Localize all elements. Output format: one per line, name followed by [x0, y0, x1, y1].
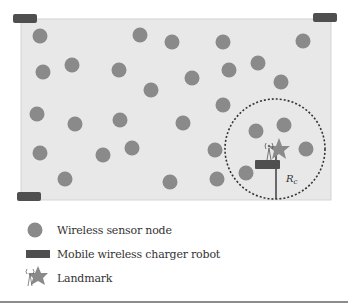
sensor-node [33, 29, 48, 44]
sensor-node [222, 63, 237, 78]
sensor-node [133, 28, 148, 43]
charger-robot-center [255, 160, 280, 169]
sensor-node [216, 98, 231, 113]
sensor-node [274, 75, 289, 90]
sensor-node [96, 148, 111, 163]
charger-robot-bottom-left [17, 192, 41, 201]
legend-charger-robot-icon [26, 250, 50, 258]
sensor-node [216, 35, 231, 50]
sensor-node [251, 56, 266, 71]
sensor-node [144, 83, 159, 98]
charger-robot-top-left [13, 14, 37, 23]
bottom-divider [0, 301, 348, 303]
sensor-node [125, 141, 140, 156]
legend-item-landmark: Landmark [57, 268, 112, 288]
sensor-node [165, 35, 180, 50]
sensor-node [113, 113, 128, 128]
sensor-node [33, 146, 48, 161]
sensor-node [296, 34, 311, 49]
sensor-node [68, 117, 83, 132]
sensor-node [185, 71, 200, 86]
legend-label: Landmark [57, 272, 112, 285]
legend-landmark-icon [26, 266, 48, 286]
sensor-node [58, 172, 73, 187]
legend-label: Mobile wireless charger robot [57, 248, 220, 261]
sensor-node [277, 118, 292, 133]
sensor-node [210, 172, 225, 187]
legend-label: Wireless sensor node [57, 224, 172, 237]
sensor-node [176, 116, 191, 131]
sensor-node [208, 143, 223, 158]
charger-robot-top-right [313, 13, 337, 22]
sensor-node [36, 65, 51, 80]
sensor-node [112, 63, 127, 78]
legend-item-charger-robot: Mobile wireless charger robot [57, 244, 220, 264]
sensor-node [299, 142, 314, 157]
sensor-node [249, 124, 264, 139]
sensor-node [239, 166, 254, 181]
legend-item-sensor-node: Wireless sensor node [57, 220, 172, 240]
legend-sensor-node-icon [28, 223, 43, 238]
sensor-node [163, 175, 178, 190]
sensor-node [65, 58, 80, 73]
sensor-node [30, 107, 45, 122]
